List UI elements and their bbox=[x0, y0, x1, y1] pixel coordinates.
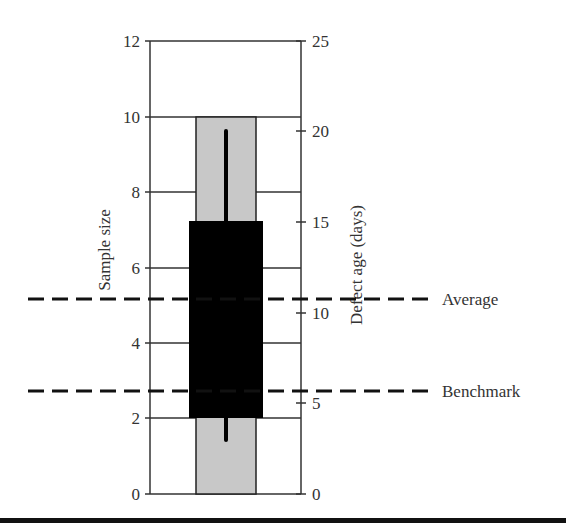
svg-text:2: 2 bbox=[132, 409, 141, 428]
svg-text:0: 0 bbox=[312, 485, 321, 504]
svg-text:15: 15 bbox=[312, 213, 329, 232]
svg-text:8: 8 bbox=[132, 183, 141, 202]
right-tick-labels: 25 20 15 10 5 0 bbox=[312, 32, 329, 504]
benchmark-label: Benchmark bbox=[442, 382, 521, 401]
bottom-rule bbox=[0, 518, 566, 523]
svg-text:6: 6 bbox=[132, 259, 141, 278]
svg-text:10: 10 bbox=[123, 108, 140, 127]
svg-text:25: 25 bbox=[312, 32, 329, 51]
svg-text:12: 12 bbox=[123, 32, 140, 51]
left-axis-title: Sample size bbox=[95, 209, 114, 291]
average-label: Average bbox=[442, 290, 498, 309]
svg-text:4: 4 bbox=[132, 334, 141, 353]
left-axis bbox=[145, 41, 150, 494]
svg-text:0: 0 bbox=[132, 485, 141, 504]
left-tick-labels: 12 10 8 6 4 2 0 bbox=[123, 32, 141, 504]
svg-text:10: 10 bbox=[312, 304, 329, 323]
svg-text:20: 20 bbox=[312, 122, 329, 141]
right-axis-title: Defect age (days) bbox=[347, 205, 366, 325]
chart: 12 10 8 6 4 2 0 25 20 15 10 5 0 Sample s… bbox=[0, 0, 566, 528]
svg-text:5: 5 bbox=[312, 394, 321, 413]
